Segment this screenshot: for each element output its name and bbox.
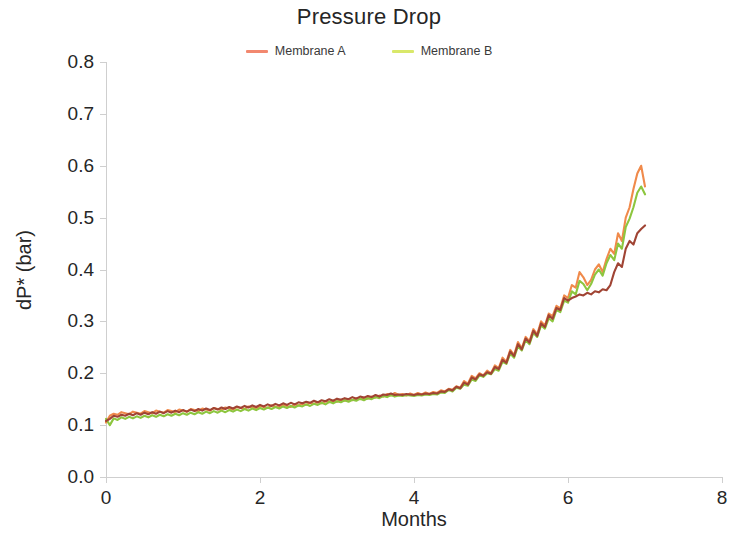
y-tick [100, 218, 106, 219]
x-tick [414, 477, 415, 483]
y-axis-title: dP* (bar) [13, 229, 36, 309]
y-tick-label: 0.3 [68, 310, 94, 332]
legend-swatch-membrane-b [392, 50, 414, 53]
x-tick-label: 6 [563, 487, 574, 509]
y-tick-label: 0.8 [68, 51, 94, 73]
x-tick-label: 2 [255, 487, 266, 509]
y-tick [100, 62, 106, 63]
series-line [106, 225, 645, 421]
y-tick-label: 0.5 [68, 207, 94, 229]
x-tick [106, 477, 107, 483]
legend-label-membrane-b: Membrane B [421, 44, 493, 58]
y-tick [100, 270, 106, 271]
legend-swatch-membrane-a [246, 50, 268, 53]
x-tick [568, 477, 569, 483]
x-tick [722, 477, 723, 483]
chart-legend: Membrane A Membrane B [0, 44, 738, 58]
y-tick [100, 373, 106, 374]
series-lines [106, 62, 722, 477]
x-tick-label: 8 [717, 487, 728, 509]
x-tick-label: 0 [101, 487, 112, 509]
chart-title: Pressure Drop [0, 4, 738, 30]
y-tick-label: 0.7 [68, 103, 94, 125]
legend-item-membrane-a[interactable]: Membrane A [246, 44, 346, 58]
y-tick-label: 0.2 [68, 362, 94, 384]
plot-area [106, 62, 722, 477]
y-axis-title-host: dP* (bar) [30, 62, 31, 477]
chart-figure: Pressure Drop Membrane A Membrane B dP* … [0, 0, 738, 543]
x-axis-title: Months [106, 508, 722, 531]
y-tick-label: 0.6 [68, 155, 94, 177]
y-tick-label: 0.1 [68, 414, 94, 436]
y-tick [100, 321, 106, 322]
series-line [106, 187, 645, 426]
y-tick [100, 114, 106, 115]
y-tick [100, 166, 106, 167]
series-line [106, 166, 645, 423]
y-tick-label: 0.0 [68, 466, 94, 488]
legend-label-membrane-a: Membrane A [275, 44, 346, 58]
x-tick [260, 477, 261, 483]
x-tick-label: 4 [409, 487, 420, 509]
legend-item-membrane-b[interactable]: Membrane B [392, 44, 493, 58]
y-tick-label: 0.4 [68, 259, 94, 281]
y-tick [100, 425, 106, 426]
